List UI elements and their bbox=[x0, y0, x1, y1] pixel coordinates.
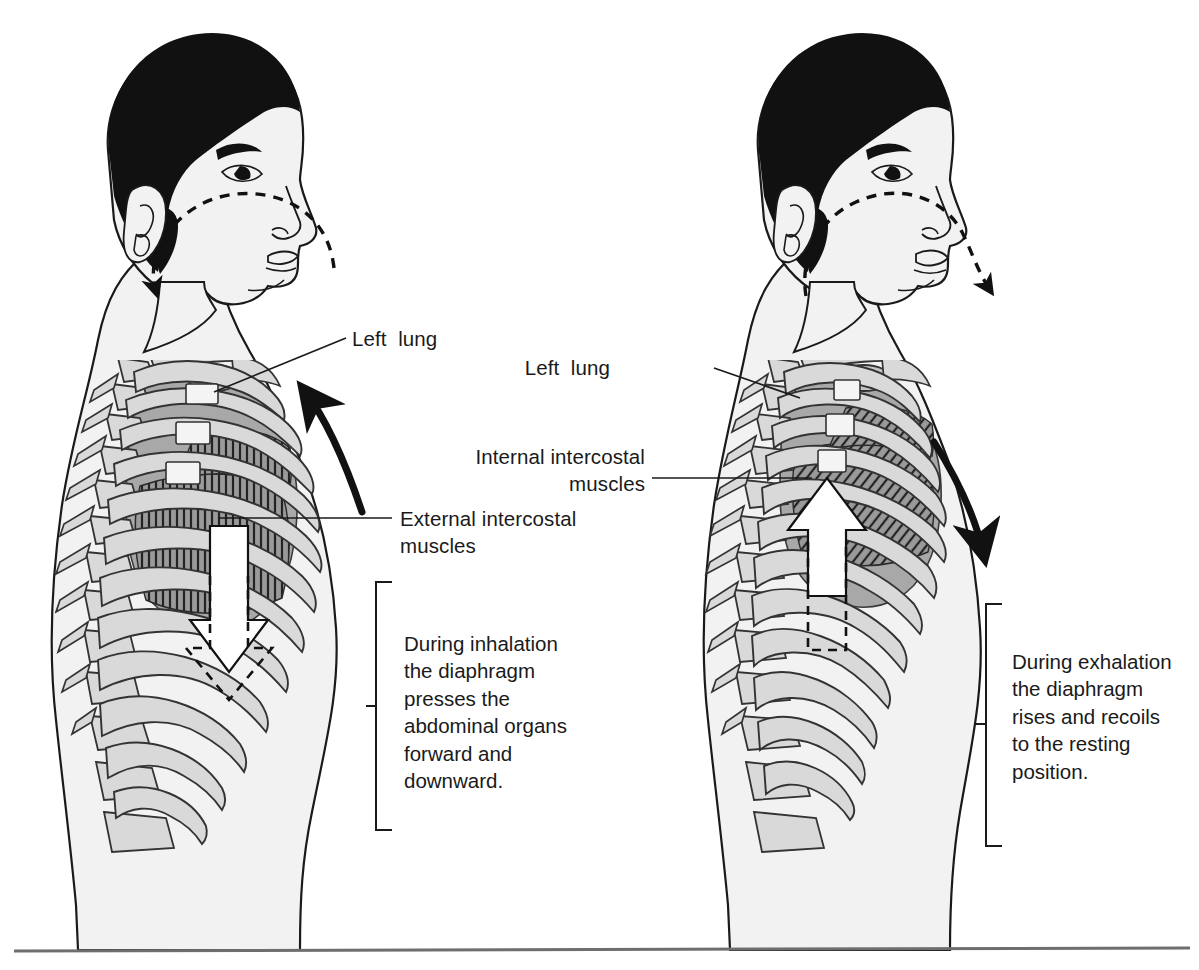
figure-inhalation bbox=[52, 33, 392, 950]
label-internal-intercostal-muscles: Internal intercostal muscles bbox=[380, 444, 645, 497]
caption-bracket-right bbox=[986, 604, 1002, 846]
diagram-page: Left lung External intercostal muscles D… bbox=[0, 0, 1199, 970]
figure-exhalation bbox=[652, 33, 1002, 950]
caption-inhalation: During inhalation the diaphragm presses … bbox=[404, 630, 634, 795]
label-left-lung-inhalation: Left lung bbox=[352, 326, 437, 353]
label-left-lung-exhalation: Left lung bbox=[430, 355, 610, 382]
label-external-intercostal-muscles: External intercostal muscles bbox=[400, 506, 576, 559]
caption-exhalation: During exhalation the diaphragm rises an… bbox=[1012, 648, 1197, 785]
